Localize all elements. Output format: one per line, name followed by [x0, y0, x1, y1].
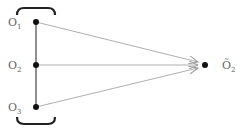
arrow-o1-to-target [36, 22, 198, 62]
node-o1 [33, 19, 39, 25]
node-o3 [33, 104, 39, 110]
top-bracket [17, 8, 55, 15]
node-o2 [33, 62, 39, 68]
label-o2: O2 [8, 59, 22, 74]
bottom-bracket [17, 117, 55, 124]
label-target: Õ2 [222, 58, 236, 74]
label-o3: O3 [8, 101, 22, 116]
node-target [202, 62, 208, 68]
arrow-o3-to-target [36, 68, 198, 107]
label-o1: O1 [8, 16, 22, 31]
diagram-canvas: O1 O2 O3 Õ2 [0, 0, 246, 133]
